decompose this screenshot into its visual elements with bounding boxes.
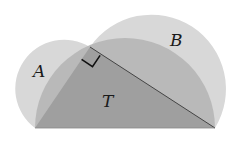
label-t: T: [102, 91, 115, 111]
label-a: A: [31, 61, 45, 81]
label-b: B: [169, 30, 183, 50]
lunes-diagram: A B T: [0, 0, 241, 141]
